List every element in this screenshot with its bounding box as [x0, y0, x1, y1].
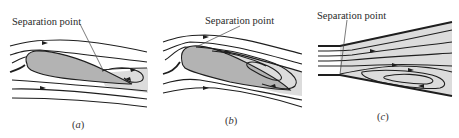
panel-a-stagnation-streamline [10, 65, 25, 72]
panel-a-separation-label: Separation point [12, 16, 81, 27]
panel-a-flow-arrow [42, 41, 48, 45]
panel-a: Separation point (a) [10, 16, 148, 131]
panel-b-stagnation-streamline [163, 62, 180, 74]
flow-separation-figure: Separation point (a) Separation point (b… [0, 0, 459, 138]
panel-b-separation-label: Separation point [205, 15, 274, 26]
panel-c-separation-label: Separation point [317, 10, 386, 21]
panel-a-airfoil-body [26, 51, 132, 84]
panel-c-caption: (c) [377, 111, 389, 123]
panel-a-caption: (a) [72, 119, 85, 131]
panel-c: Separation point (c) [317, 10, 452, 123]
panel-b-caption: (b) [225, 115, 238, 127]
panel-b-flow-arrow [203, 86, 209, 90]
panel-a-streamline [12, 89, 147, 99]
panel-a-streamline [12, 98, 147, 107]
panel-b: Separation point (b) [163, 15, 302, 127]
